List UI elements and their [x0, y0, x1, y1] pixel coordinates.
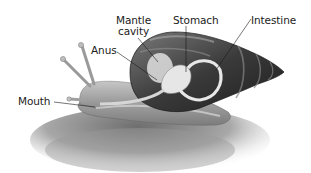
label-intestine: Intestine	[251, 15, 296, 26]
label-anus: Anus	[91, 45, 117, 56]
label-stomach: Stomach	[173, 15, 219, 26]
snail-anatomy-diagram: Mantle cavity Anus Stomach Intestine Mou…	[0, 0, 311, 173]
label-mouth: Mouth	[18, 96, 50, 107]
label-mantle-cavity: Mantle cavity	[116, 15, 151, 37]
